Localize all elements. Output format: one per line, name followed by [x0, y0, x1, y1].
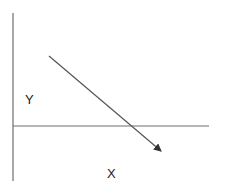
x-axis-label: X: [107, 166, 116, 181]
descending-arrow: [49, 56, 161, 151]
diagram-canvas: Y X: [0, 0, 225, 193]
y-axis-label: Y: [25, 92, 34, 107]
